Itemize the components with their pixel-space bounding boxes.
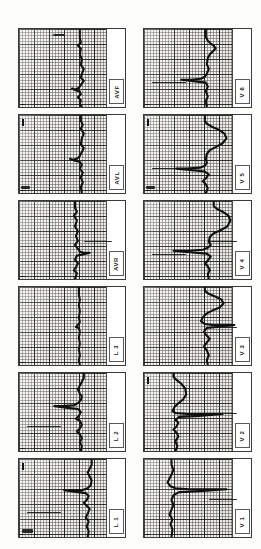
lead-label-v6: V 6 <box>235 79 250 104</box>
lead-label-text: V 3 <box>240 344 246 355</box>
ecg-panel-l1: L 1 <box>18 458 126 538</box>
ecg-sheet: AVFAVLAVRL 3L 2L 1V 6V 5V 4V 3V 2V 1 <box>0 0 261 549</box>
ecg-graph-paper: V 5 <box>143 114 252 194</box>
ecg-panel-avf: AVF <box>18 28 126 108</box>
print-artifact-top-bar <box>53 34 65 36</box>
print-artifact-blob <box>22 529 33 533</box>
edge-tick-mark <box>145 534 150 535</box>
lead-label-text: AVR <box>114 256 120 270</box>
ecg-panel-v6: V 6 <box>143 28 252 108</box>
edge-tick-mark <box>145 190 150 191</box>
lead-label-text: V 2 <box>240 430 246 441</box>
baseline-artifact-right <box>209 499 237 500</box>
print-artifact-bottom-bar <box>21 186 30 189</box>
baseline-artifact-left <box>27 512 61 513</box>
lead-label-text: V 4 <box>240 258 246 269</box>
lead-label-l3: L 3 <box>109 337 124 362</box>
baseline-artifact-left <box>27 426 61 427</box>
lead-label-text: L 3 <box>114 344 120 354</box>
edge-tick-mark <box>20 362 25 363</box>
ecg-panel-v2: V 2 <box>143 372 252 452</box>
ecg-panel-l2: L 2 <box>18 372 126 452</box>
ecg-graph-paper: V 6 <box>143 28 252 108</box>
ecg-graph-paper: V 4 <box>143 200 252 280</box>
baseline-artifact-left <box>152 168 186 169</box>
lead-label-v3: V 3 <box>235 337 250 362</box>
ecg-graph-paper: V 1 <box>143 458 252 538</box>
lead-label-text: AVL <box>114 171 120 184</box>
lead-label-l1: L 1 <box>109 509 124 534</box>
ecg-graph-paper: L 1 <box>18 458 126 538</box>
edge-tick-mark <box>145 448 150 449</box>
print-artifact-bottom-bar <box>146 186 155 189</box>
edge-tick-mark <box>20 276 25 277</box>
baseline-artifact-right <box>209 327 237 328</box>
edge-tick-mark <box>20 534 25 535</box>
lead-label-avr: AVR <box>109 251 124 276</box>
lead-label-v1: V 1 <box>235 509 250 534</box>
ecg-graph-paper: AVF <box>18 28 126 108</box>
lead-label-avl: AVL <box>109 165 124 190</box>
lead-label-text: V 6 <box>240 86 246 97</box>
edge-tick-mark <box>145 362 150 363</box>
ecg-graph-paper: V 3 <box>143 286 252 366</box>
lead-label-text: V 5 <box>240 172 246 183</box>
baseline-artifact-right <box>209 413 237 414</box>
lead-label-text: L 1 <box>114 516 120 526</box>
ecg-panel-avl: AVL <box>18 114 126 194</box>
lead-label-v4: V 4 <box>235 251 250 276</box>
lead-label-v2: V 2 <box>235 423 250 448</box>
ecg-panel-v5: V 5 <box>143 114 252 194</box>
lead-label-v5: V 5 <box>235 165 250 190</box>
calibration-mark <box>147 377 149 384</box>
edge-tick-mark <box>145 276 150 277</box>
ecg-graph-paper: L 2 <box>18 372 126 452</box>
ecg-graph-paper: V 2 <box>143 372 252 452</box>
lead-label-l2: L 2 <box>109 423 124 448</box>
ecg-graph-paper: AVR <box>18 200 126 280</box>
lead-label-text: L 2 <box>114 430 120 440</box>
ecg-panel-l3: L 3 <box>18 286 126 366</box>
edge-tick-mark <box>20 448 25 449</box>
baseline-artifact-left <box>152 82 186 83</box>
ecg-graph-paper: L 3 <box>18 286 126 366</box>
lead-label-text: V 1 <box>240 516 246 527</box>
ecg-graph-paper: AVL <box>18 114 126 194</box>
lead-label-avf: AVF <box>109 79 124 104</box>
calibration-mark <box>22 119 24 126</box>
edge-tick-mark <box>145 104 150 105</box>
baseline-artifact-right <box>84 241 112 242</box>
ecg-panel-v1: V 1 <box>143 458 252 538</box>
baseline-artifact-right <box>209 241 237 242</box>
lead-label-text: AVF <box>114 85 120 98</box>
baseline-artifact-left <box>152 254 186 255</box>
calibration-mark <box>22 463 24 470</box>
ecg-panel-v4: V 4 <box>143 200 252 280</box>
edge-tick-mark <box>20 104 25 105</box>
ecg-panel-avr: AVR <box>18 200 126 280</box>
edge-tick-mark <box>20 190 25 191</box>
ecg-panel-v3: V 3 <box>143 286 252 366</box>
calibration-mark <box>147 119 149 126</box>
